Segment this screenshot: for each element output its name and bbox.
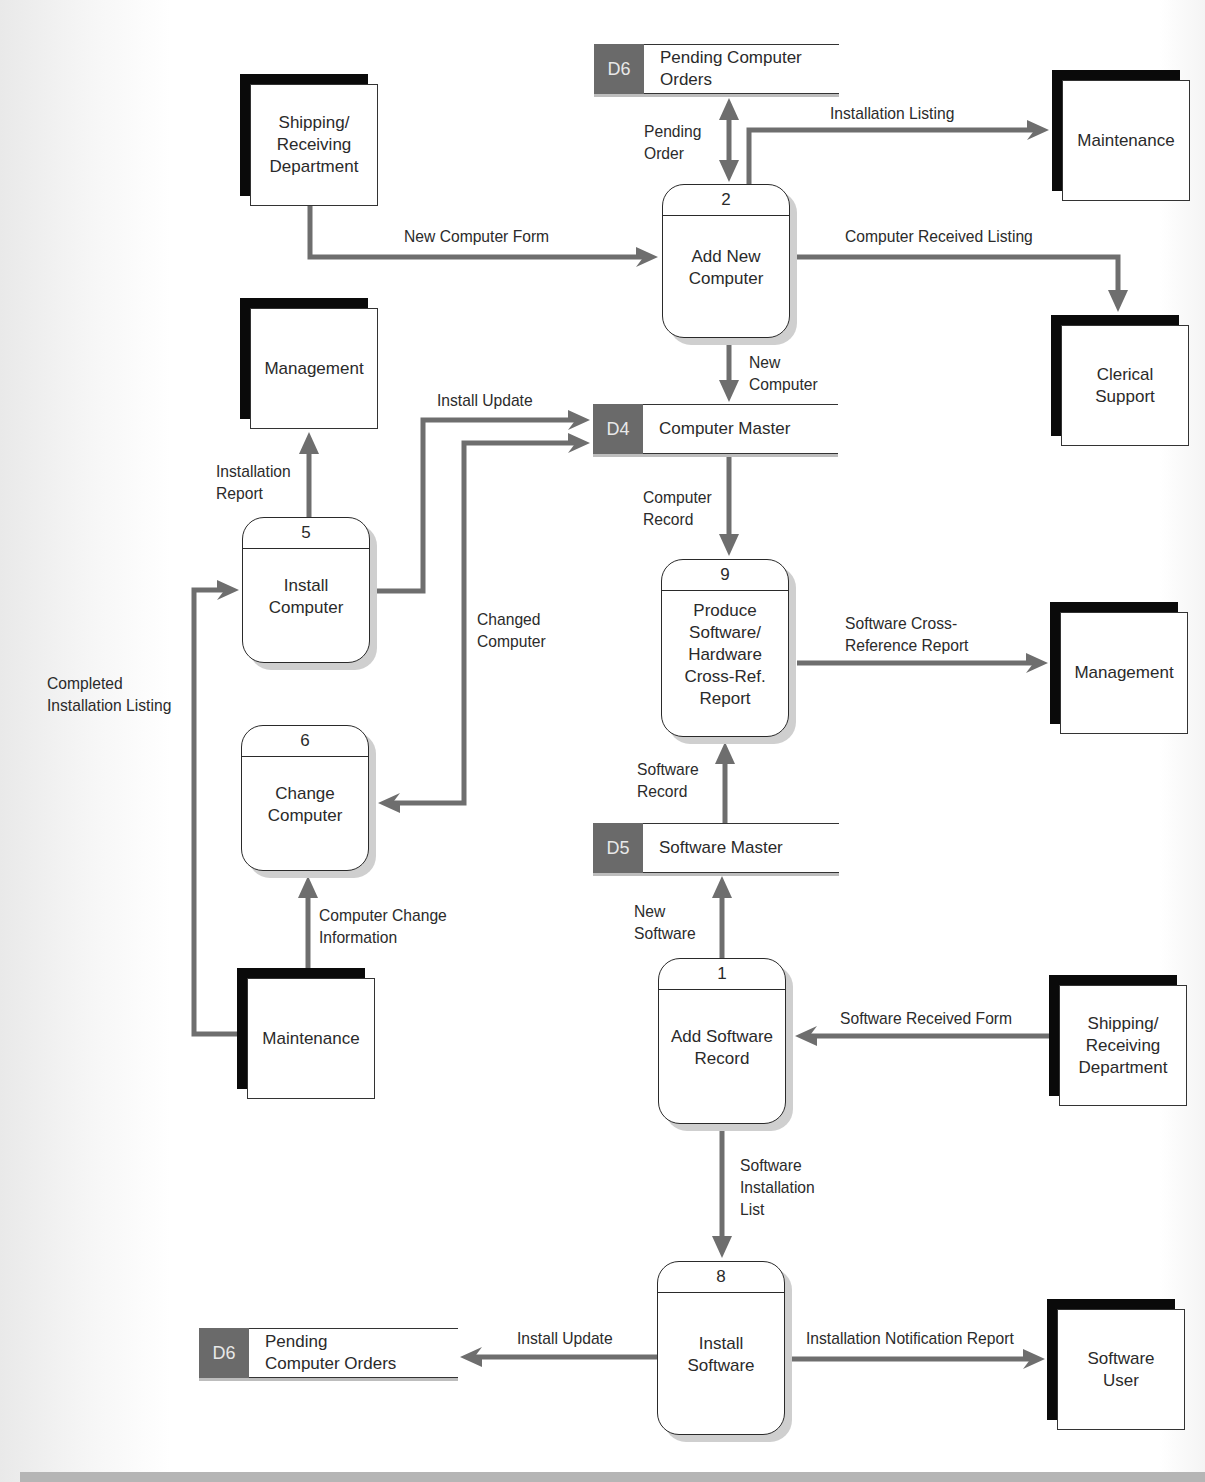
arrowhead-icon [1026, 653, 1048, 673]
arrowhead-icon [636, 247, 658, 267]
external-entity-software-user: Software User [1047, 1299, 1185, 1430]
flow-label-computer-received-listing: Computer Received Listing [845, 226, 1033, 248]
external-entity-maintenance-bottom: Maintenance [237, 968, 375, 1099]
flow-software-installation-list [712, 1126, 732, 1258]
external-entity-management-left: Management [240, 298, 378, 429]
arrowhead-icon [719, 98, 739, 120]
data-flow-diagram [0, 0, 1205, 1482]
process-5: 5Install Computer [242, 517, 370, 663]
data-store-name: Computer Master [643, 404, 838, 454]
arrowhead-icon [719, 160, 739, 182]
data-store-name: Pending Computer Orders [249, 1328, 458, 1378]
data-store-id: D6 [594, 44, 644, 94]
process-name: Add Software Record [659, 990, 785, 1070]
data-store-d6-3: D6Pending Computer Orders [199, 1328, 458, 1378]
flow-installation-listing [749, 120, 1049, 184]
arrowhead-icon [719, 534, 739, 556]
entity-label: Maintenance [1062, 80, 1190, 201]
flow-label-install-update-bottom: Install Update [517, 1328, 613, 1350]
process-name: Produce Software/ Hardware Cross-Ref. Re… [662, 591, 788, 710]
flow-computer-record [719, 456, 739, 556]
flow-completed-installation-listing [194, 580, 239, 1034]
arrowhead-icon [460, 1347, 482, 1367]
process-9: 9Produce Software/ Hardware Cross-Ref. R… [661, 559, 789, 737]
flow-line [370, 420, 574, 591]
process-number: 6 [242, 726, 368, 757]
data-store-name: Software Master [643, 823, 839, 873]
external-entity-clerical-support: Clerical Support [1051, 315, 1189, 446]
arrowhead-icon [217, 580, 239, 600]
flow-installation-notification-report [792, 1349, 1045, 1369]
external-entity-shipping-bottom: Shipping/ Receiving Department [1049, 975, 1187, 1106]
flow-line [790, 257, 1118, 296]
process-6: 6Change Computer [241, 725, 369, 871]
flow-label-installation-listing: Installation Listing [830, 103, 954, 125]
process-8: 8Install Software [657, 1261, 785, 1435]
flow-install-update-top [370, 410, 590, 591]
arrowhead-icon [568, 433, 590, 453]
flow-label-software-cross-reference-report: Software Cross- Reference Report [845, 613, 968, 657]
flow-label-computer-change-information: Computer Change Information [319, 905, 447, 949]
entity-label: Management [250, 308, 378, 429]
arrowhead-icon [1108, 290, 1128, 312]
flow-computer-change-information [298, 876, 318, 968]
flow-label-changed-computer: Changed Computer [477, 609, 546, 653]
page-bottom-rule [20, 1472, 1205, 1482]
flow-label-new-computer-form: New Computer Form [404, 226, 549, 248]
flow-label-installation-notification-report: Installation Notification Report [806, 1328, 1014, 1350]
entity-label: Maintenance [247, 978, 375, 1099]
flow-label-computer-record: Computer Record [643, 487, 712, 531]
data-store-name: Pending Computer Orders [644, 44, 839, 94]
process-name: Add New Computer [663, 216, 789, 290]
arrowhead-icon [719, 380, 739, 402]
arrowhead-icon [1027, 120, 1049, 140]
flow-pending-order [719, 98, 739, 182]
process-name: Change Computer [242, 757, 368, 827]
data-store-id: D6 [199, 1328, 249, 1378]
process-name: Install Computer [243, 549, 369, 619]
data-store-id: D5 [593, 823, 643, 873]
process-number: 1 [659, 959, 785, 990]
flow-software-record [715, 742, 735, 823]
external-entity-shipping-top: Shipping/ Receiving Department [240, 74, 378, 206]
arrowhead-icon [568, 410, 590, 430]
entity-label: Shipping/ Receiving Department [1059, 985, 1187, 1106]
flow-installation-report [299, 432, 319, 517]
data-store-d4-1: D4Computer Master [593, 404, 838, 454]
flow-install-update-bottom [460, 1347, 657, 1367]
flow-label-completed-installation-listing: Completed Installation Listing [47, 673, 171, 717]
arrowhead-icon [378, 793, 400, 813]
data-store-id: D4 [593, 404, 643, 454]
arrowhead-icon [712, 1236, 732, 1258]
arrowhead-icon [715, 742, 735, 764]
flow-new-computer [719, 338, 739, 402]
flow-label-software-record: Software Record [637, 759, 699, 803]
entity-label: Shipping/ Receiving Department [250, 84, 378, 206]
arrowhead-icon [712, 876, 732, 898]
flow-line [194, 590, 237, 1034]
flow-label-new-software: New Software [634, 901, 696, 945]
process-number: 2 [663, 185, 789, 216]
flow-label-new-computer: New Computer [749, 352, 818, 396]
process-number: 5 [243, 518, 369, 549]
flow-label-software-received-form: Software Received Form [840, 1008, 1012, 1030]
arrowhead-icon [795, 1026, 817, 1046]
arrowhead-icon [1023, 1349, 1045, 1369]
entity-label: Clerical Support [1061, 325, 1189, 446]
flow-label-software-installation-list: Software Installation List [740, 1155, 815, 1221]
data-store-d6-0: D6Pending Computer Orders [594, 44, 839, 94]
external-entity-maintenance-top: Maintenance [1052, 70, 1190, 201]
arrowhead-icon [299, 432, 319, 454]
external-entity-management-right: Management [1050, 602, 1188, 734]
process-number: 8 [658, 1262, 784, 1293]
process-2: 2Add New Computer [662, 184, 790, 338]
arrowhead-icon [298, 876, 318, 898]
flow-label-installation-report: Installation Report [216, 461, 291, 505]
process-name: Install Software [658, 1293, 784, 1377]
flow-label-install-update-top: Install Update [437, 390, 533, 412]
entity-label: Software User [1057, 1309, 1185, 1430]
process-1: 1Add Software Record [658, 958, 786, 1124]
flow-computer-received-listing [790, 257, 1128, 312]
flow-new-software [712, 876, 732, 958]
flow-label-pending-order: Pending Order [644, 121, 701, 165]
